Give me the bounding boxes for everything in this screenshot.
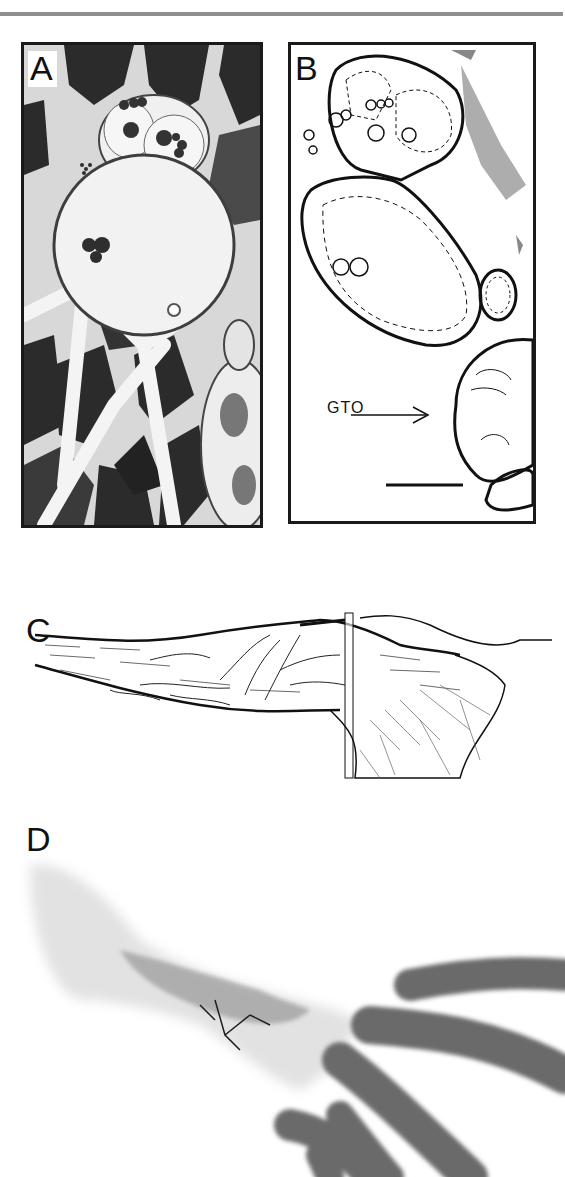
header-rule [0, 12, 563, 16]
gto-annotation: GTO [327, 399, 364, 417]
panel-label-a: A [28, 51, 57, 87]
panel-d-micrograph: D [0, 810, 565, 1177]
panel-d-image [0, 810, 565, 1177]
panel-b-tracing: B GTO [288, 42, 536, 524]
panel-c-image [0, 600, 565, 790]
panel-b-drawing [291, 45, 533, 521]
running-header [0, 0, 565, 4]
panel-c-drawing: C [0, 600, 565, 790]
panel-label-b: B [295, 51, 318, 85]
panel-a-image [24, 45, 260, 525]
panel-a-micrograph: A [21, 42, 263, 528]
